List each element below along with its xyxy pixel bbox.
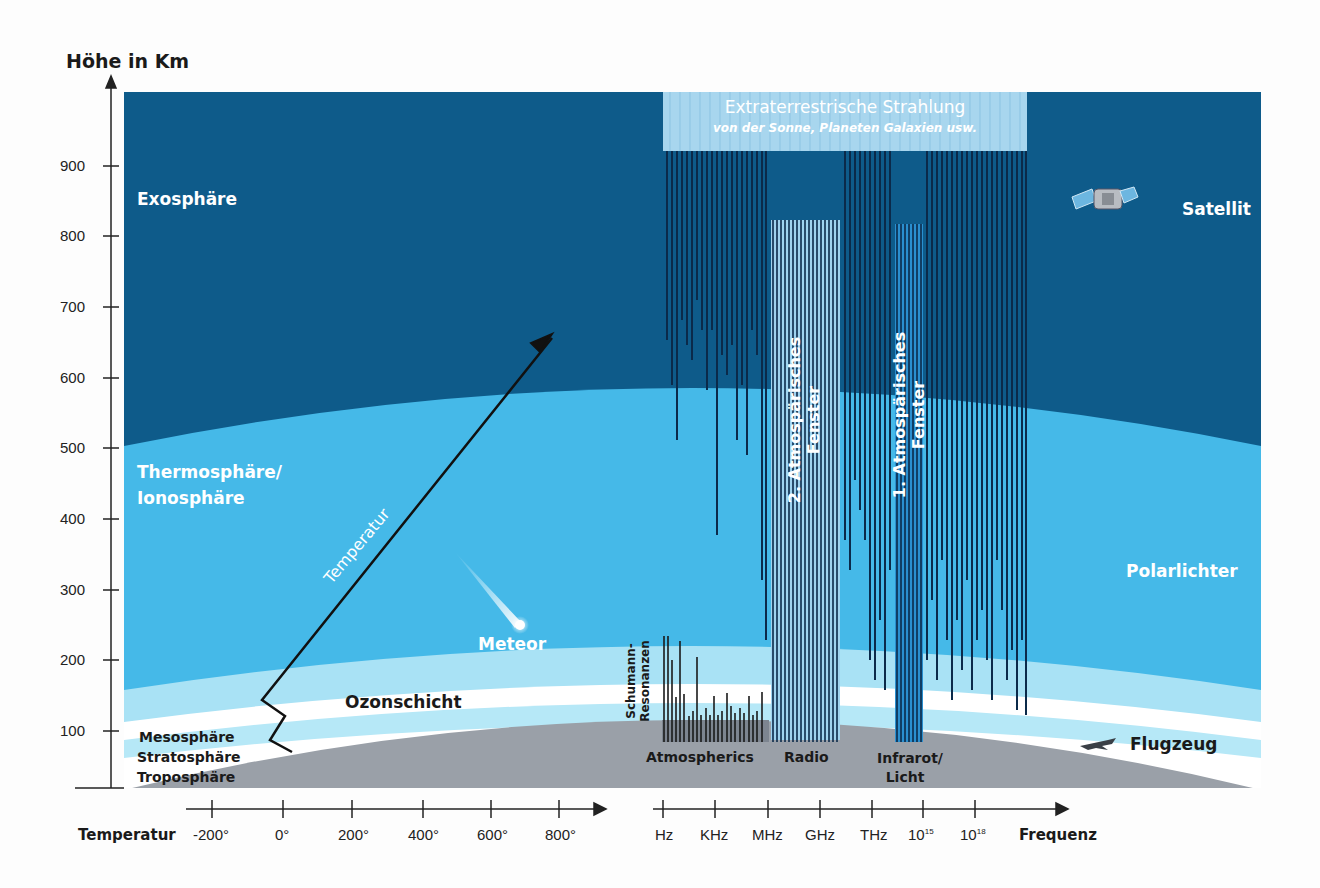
freq-tick-thz: THz (860, 826, 888, 843)
label-meteor: Meteor (478, 634, 546, 654)
label-exosphere: Exosphäre (137, 189, 237, 209)
temperature-axis (186, 800, 606, 818)
freq-tick-1e15: 1015 (908, 826, 934, 843)
freq-1e15-exp: 15 (925, 827, 934, 836)
label-satellite: Satellit (1182, 199, 1251, 219)
temp-tick-400: 400° (408, 826, 439, 843)
label-troposphere: Troposphäre (137, 769, 235, 785)
freq-tick-khz: KHz (700, 826, 728, 843)
label-mesosphere: Mesosphäre (139, 729, 235, 745)
infrared-line2: Licht (877, 768, 933, 787)
label-stratosphere: Stratosphäre (137, 749, 241, 765)
label-infrared-light: Infrarot/ Licht (877, 749, 933, 787)
y-tick-200: 200 (60, 651, 85, 668)
temperature-axis-title: Temperatur (78, 826, 176, 844)
temp-tick-800: 800° (545, 826, 576, 843)
temp-tick-200: 200° (338, 826, 369, 843)
y-tick-900: 900 (60, 157, 85, 174)
label-atmospherics: Atmospherics (646, 749, 754, 765)
label-window-1: 1. Atmospärisches Fenster (890, 305, 928, 525)
y-tick-300: 300 (60, 581, 85, 598)
y-axis-title: Höhe in Km (66, 50, 189, 72)
frequency-axis (653, 800, 1068, 818)
window-1-line1: 1. Atmospärisches (890, 305, 909, 525)
temp-tick-600: 600° (477, 826, 508, 843)
label-ozone-layer: Ozonschicht (345, 692, 462, 712)
label-ionosphere: Ionosphäre (137, 488, 245, 508)
atmosphere-diagram: Höhe in Km 900 800 700 600 500 400 300 2… (0, 0, 1320, 888)
window-1-line2: Fenster (909, 305, 928, 525)
infrared-line1: Infrarot/ (877, 749, 933, 768)
temp-tick-0: 0° (275, 826, 289, 843)
y-tick-100: 100 (60, 722, 85, 739)
radiation-title: Extraterrestrische Strahlung (663, 97, 1027, 117)
freq-1e15-base: 10 (908, 826, 925, 843)
y-tick-700: 700 (60, 298, 85, 315)
y-tick-800: 800 (60, 227, 85, 244)
y-axis (75, 76, 124, 788)
label-airplane: Flugzeug (1130, 734, 1217, 754)
freq-tick-hz: Hz (655, 826, 673, 843)
window-2-line2: Fenster (804, 300, 823, 540)
radiation-subtitle: von der Sonne, Planeten Galaxien usw. (663, 121, 1027, 135)
label-schumann-resonances: Schumann- Resonanzen (624, 626, 652, 736)
label-aurora: Polarlichter (1126, 561, 1238, 581)
freq-tick-mhz: MHz (752, 826, 783, 843)
window-2-line1: 2. Atmospärisches (785, 300, 804, 540)
schumann-line2: Resonanzen (638, 626, 652, 736)
y-tick-600: 600 (60, 369, 85, 386)
schumann-line1: Schumann- (624, 626, 638, 736)
y-tick-400: 400 (60, 510, 85, 527)
freq-tick-ghz: GHz (805, 826, 835, 843)
freq-1e18-exp: 18 (977, 827, 986, 836)
freq-1e18-base: 10 (960, 826, 977, 843)
label-radio: Radio (784, 749, 829, 765)
label-window-2: 2. Atmospärisches Fenster (785, 300, 823, 540)
freq-tick-1e18: 1018 (960, 826, 986, 843)
y-tick-500: 500 (60, 439, 85, 456)
frequency-axis-title: Frequenz (1019, 826, 1097, 844)
temp-tick-minus200: -200° (193, 826, 229, 843)
label-thermosphere: Thermosphäre/ (137, 462, 282, 482)
